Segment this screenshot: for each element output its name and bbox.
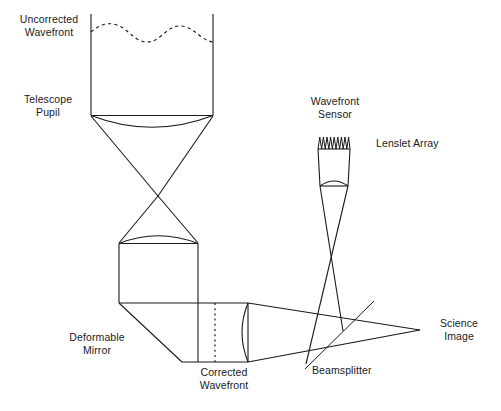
science-ray-lower (248, 330, 420, 362)
adaptive-optics-diagram: Uncorrected Wavefront Telescope Pupil Wa… (0, 0, 501, 411)
lenslet-array-teeth (318, 137, 350, 149)
wfs-ray-left (306, 186, 348, 364)
lenslet-array-label: Lenslet Array (376, 137, 486, 150)
telescope-pupil-label: Telescope Pupil (10, 93, 86, 119)
beamsplitter-label: Beamsplitter (312, 364, 392, 377)
wfs-body-right-edge (348, 149, 350, 186)
collimating-lens-curve (119, 236, 198, 244)
deformable-mirror-label: Deformable Mirror (56, 331, 138, 357)
uncorrected-wavefront-line (91, 24, 213, 42)
wfs-lens-curve (320, 181, 348, 186)
wavefront-sensor-label: Wavefront Sensor (296, 95, 374, 121)
corrected-wavefront-label: Corrected Wavefront (182, 366, 266, 392)
wfs-ray-right (320, 186, 343, 331)
science-ray-upper (248, 303, 420, 330)
uncorrected-wavefront-label: Uncorrected Wavefront (8, 13, 90, 39)
converging-ray-left (91, 116, 158, 196)
converging-ray-right (158, 116, 213, 196)
wfs-body-left-edge (318, 149, 320, 186)
science-image-label: Science Image (426, 317, 492, 343)
telescope-objective-lens (91, 116, 213, 128)
imaging-lens-curve (242, 303, 248, 362)
